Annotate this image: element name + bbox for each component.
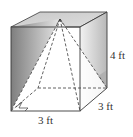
width-label: 3 ft	[38, 114, 53, 126]
pyramid-in-box-diagram: 4 ft 3 ft 3 ft	[0, 0, 133, 137]
height-label: 4 ft	[110, 49, 125, 61]
depth-label: 3 ft	[98, 100, 113, 112]
